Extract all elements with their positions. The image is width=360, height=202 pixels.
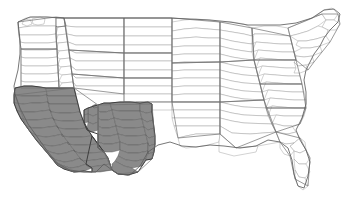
us-county-map[interactable] — [0, 0, 360, 202]
map-figure — [0, 0, 360, 202]
